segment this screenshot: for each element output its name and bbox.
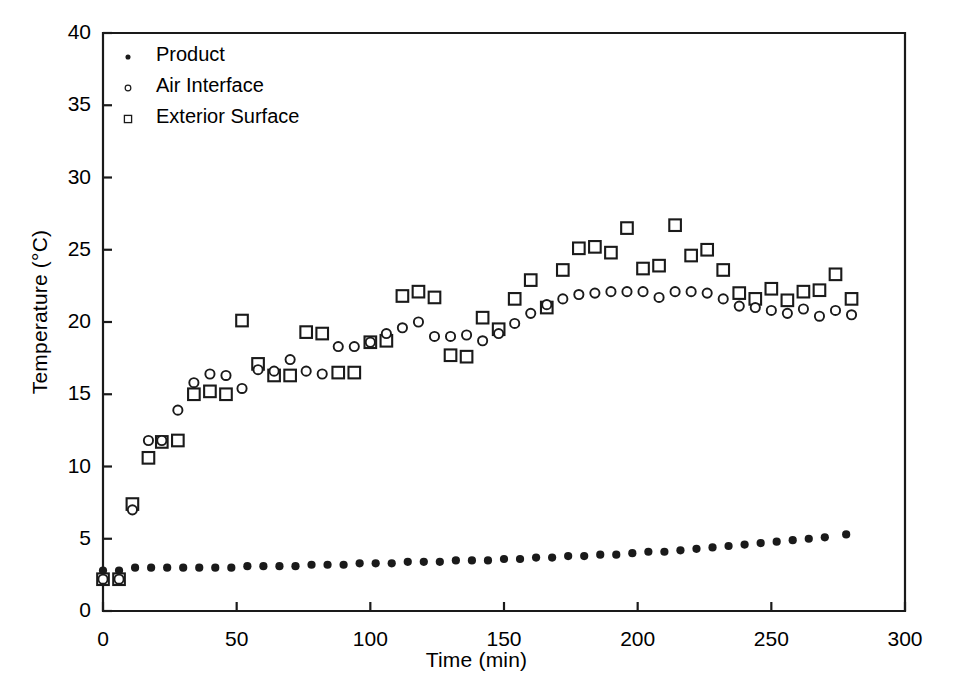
legend-item-label: Exterior Surface <box>156 105 299 128</box>
legend-marker-open-square <box>124 115 131 122</box>
y-axis-title: Temperature (°C) <box>28 230 51 394</box>
x-axis-title: Time (min) <box>0 648 953 672</box>
scatter-plot-canvas <box>0 0 953 695</box>
series-air-interface <box>98 287 856 584</box>
data-points <box>97 219 857 585</box>
legend-marker-filled-circle <box>125 54 130 59</box>
legend-markers <box>124 54 131 122</box>
legend-item-label: Air Interface <box>156 74 264 97</box>
series-product <box>99 530 850 574</box>
series-exterior-surface <box>97 219 857 585</box>
y-axis-title-wrapper: Temperature (°C) <box>28 12 52 612</box>
legend-item-label: Product <box>156 43 225 66</box>
legend-marker-open-circle <box>125 85 131 91</box>
chart-figure: 0510152025303540 050100150200250300 Prod… <box>0 0 953 695</box>
